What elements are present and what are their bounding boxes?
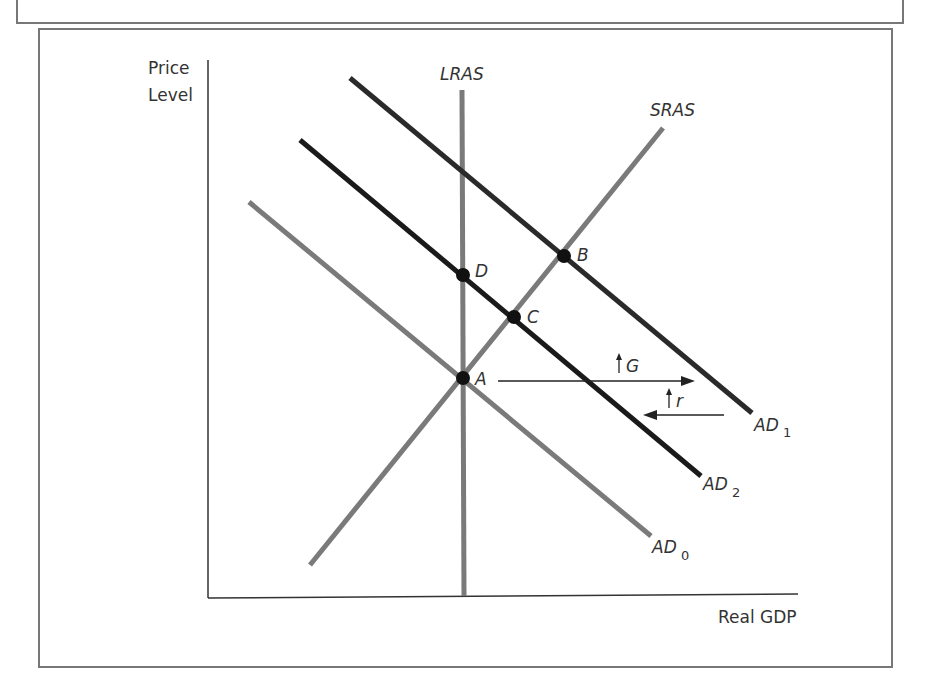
point-b-label: B bbox=[577, 245, 589, 265]
ad0-label: AD bbox=[651, 537, 677, 557]
ad1-label: AD bbox=[753, 415, 779, 435]
x-axis bbox=[208, 594, 798, 598]
arrowhead-left-icon bbox=[643, 410, 657, 420]
ad2-curve bbox=[300, 140, 701, 476]
y-axis-label-price: Price bbox=[148, 58, 189, 78]
ad1-subscript: 1 bbox=[783, 425, 791, 440]
ad2-subscript: 2 bbox=[732, 485, 740, 500]
ad0-subscript: 0 bbox=[681, 548, 689, 563]
lras-label: LRAS bbox=[440, 64, 484, 84]
up-arrow-g-head-icon bbox=[616, 353, 622, 360]
point-a-label: A bbox=[474, 369, 487, 389]
arrowhead-right-icon bbox=[681, 376, 695, 386]
point-c-label: C bbox=[527, 307, 539, 327]
r-annotation: r bbox=[676, 391, 684, 411]
point-a bbox=[456, 371, 470, 385]
point-c bbox=[507, 310, 521, 324]
up-arrow-r-head-icon bbox=[666, 388, 672, 395]
lras-curve bbox=[462, 90, 464, 596]
ad-as-diagram: Price Level Real GDP LRAS SRAS AD 1 AD 2… bbox=[0, 0, 929, 692]
x-axis-label: Real GDP bbox=[718, 607, 797, 627]
point-d bbox=[456, 268, 470, 282]
g-annotation: G bbox=[626, 356, 639, 376]
point-b bbox=[557, 249, 571, 263]
point-d-label: D bbox=[475, 261, 488, 281]
ad2-label: AD bbox=[702, 474, 728, 494]
ad0-curve bbox=[249, 202, 651, 536]
sras-label: SRAS bbox=[650, 100, 695, 120]
y-axis-label-level: Level bbox=[148, 85, 193, 105]
ad1-curve bbox=[350, 78, 752, 413]
